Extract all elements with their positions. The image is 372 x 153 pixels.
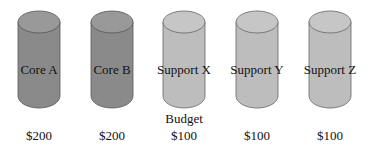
cylinder-shape bbox=[162, 10, 206, 110]
cylinder-support-x: Support X bbox=[162, 10, 206, 110]
cylinder-core-b: Core B bbox=[90, 10, 134, 110]
cylinder-label: Support Z bbox=[298, 62, 362, 78]
cylinder-core-a: Core A bbox=[17, 10, 61, 110]
amount-support-y: $100 bbox=[227, 128, 287, 144]
cylinder-shape bbox=[308, 10, 352, 110]
cylinder-label: Support Y bbox=[225, 62, 289, 78]
cylinder-shape bbox=[17, 10, 61, 110]
cylinder-label: Core B bbox=[80, 62, 144, 78]
cylinder-support-y: Support Y bbox=[235, 10, 279, 110]
amount-core-a: $200 bbox=[9, 128, 69, 144]
cylinder-support-z: Support Z bbox=[308, 10, 352, 110]
cylinder-shape bbox=[90, 10, 134, 110]
cylinder-label: Support X bbox=[152, 62, 216, 78]
cylinder-label: Core A bbox=[7, 62, 71, 78]
cylinder-shape bbox=[235, 10, 279, 110]
amount-core-b: $200 bbox=[82, 128, 142, 144]
budget-label: Budget bbox=[163, 111, 205, 127]
amount-support-z: $100 bbox=[300, 128, 360, 144]
amount-support-x: $100 bbox=[154, 128, 214, 144]
